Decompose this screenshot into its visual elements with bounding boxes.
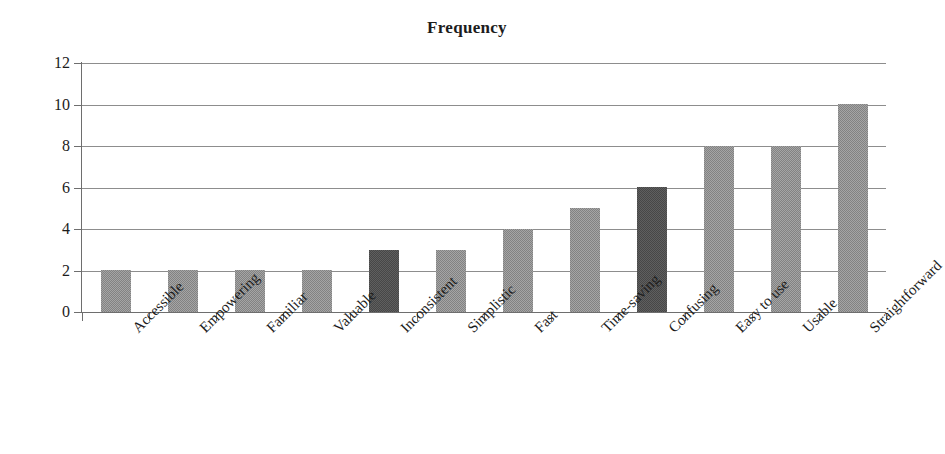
bar-accessible [101, 270, 131, 312]
gridline-8 [82, 146, 886, 147]
x-axis-label-confusing: Confusing [666, 325, 677, 336]
x-axis-label-familiar: Familiar [264, 325, 275, 336]
x-axis-label-valuable: Valuable [331, 325, 342, 336]
y-axis-tick-label-10: 10 [26, 97, 70, 113]
y-axis-tick-mark-2 [74, 271, 82, 272]
x-axis-label-time-saving: Time-saving [599, 325, 610, 336]
x-axis-label-fast: Fast [532, 325, 543, 336]
gridline-12 [82, 63, 886, 64]
y-axis-tick-mark-4 [74, 229, 82, 230]
y-axis-tick-label-12: 12 [26, 55, 70, 71]
y-axis-tick-mark-8 [74, 146, 82, 147]
x-axis-label-straightforward: Straightforward [867, 325, 878, 336]
x-axis-label-easy-to-use: Easy to use [733, 325, 744, 336]
plot-area [82, 63, 886, 312]
bar-time-saving [570, 208, 600, 312]
x-axis-label-accessible: Accessible [130, 325, 141, 336]
x-axis-tick-mark-0 [82, 313, 83, 321]
y-axis-tick-label-2: 2 [26, 263, 70, 279]
y-axis-tick-mark-10 [74, 105, 82, 106]
gridline-2 [82, 271, 886, 272]
chart-title: Frequency [0, 18, 934, 38]
gridline-6 [82, 188, 886, 189]
x-axis-label-usable: Usable [800, 325, 811, 336]
x-axis-label-simplistic: Simplistic [465, 325, 476, 336]
bar-straightforward [838, 104, 868, 312]
bar-valuable [302, 270, 332, 312]
y-axis-tick-mark-0 [74, 312, 82, 313]
y-axis-tick-label-6: 6 [26, 180, 70, 196]
y-axis-tick-label-4: 4 [26, 221, 70, 237]
gridline-10 [82, 105, 886, 106]
y-axis-tick-mark-6 [74, 188, 82, 189]
y-axis-tick-mark-12 [74, 63, 82, 64]
x-axis-label-empowering: Empowering [197, 325, 208, 336]
x-axis-label-inconsistent: Inconsistent [398, 325, 409, 336]
gridline-4 [82, 229, 886, 230]
y-axis-tick-label-0: 0 [26, 304, 70, 320]
y-axis-tick-label-8: 8 [26, 138, 70, 154]
